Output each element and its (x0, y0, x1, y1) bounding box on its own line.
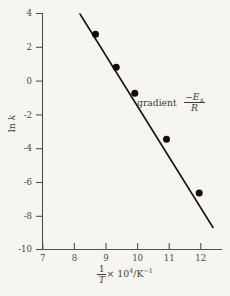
y-tick-label: -8 (8, 212, 32, 221)
data-point (92, 31, 99, 38)
x-axis-ticks (43, 243, 201, 250)
y-tick-label: -4 (8, 144, 32, 153)
x-axis-title-units-exponent: −1 (143, 267, 152, 275)
best-fit-line (80, 14, 213, 228)
y-tick-label: 0 (8, 77, 32, 86)
x-tick-label: 9 (96, 254, 116, 263)
x-axis-title-units: /K (133, 268, 143, 279)
x-tick-label: 8 (64, 254, 84, 263)
y-tick-label: 2 (8, 43, 32, 52)
y-axis-title-k: k (6, 115, 17, 121)
gradient-annotation-label: gradient (137, 97, 177, 108)
y-tick-label: -6 (8, 178, 32, 187)
gradient-activation-energy-subscript: A (200, 97, 204, 104)
x-tick-label: 10 (128, 254, 148, 263)
y-axis-ticks (36, 14, 43, 250)
gradient-gas-constant-symbol: R (184, 103, 206, 113)
data-point (113, 64, 120, 71)
gradient-annotation-fraction: −EA R (184, 92, 206, 113)
x-axis-title-multiplier: × 10 (106, 268, 129, 279)
x-axis-title: 1 T × 104/K−1 (60, 264, 190, 285)
x-tick-label: 12 (191, 254, 211, 263)
gradient-activation-energy-symbol: E (193, 91, 200, 102)
y-axis-title: ln k (6, 104, 17, 144)
y-tick-label: -10 (4, 245, 32, 254)
x-tick-label: 7 (33, 254, 53, 263)
y-tick-label: 4 (8, 9, 32, 18)
arrhenius-plot-figure: 4 2 0 -2 -4 -6 -8 -10 7 8 9 10 11 12 ln … (0, 0, 230, 296)
y-axis-title-ln: ln (6, 120, 17, 132)
x-tick-label: 11 (159, 254, 179, 263)
plot-canvas (0, 0, 230, 296)
gradient-minus-sign: − (185, 91, 193, 102)
gradient-annotation: gradient −EA R (137, 92, 205, 113)
data-point-group (92, 31, 203, 197)
data-point (163, 136, 170, 143)
data-point (196, 189, 203, 196)
